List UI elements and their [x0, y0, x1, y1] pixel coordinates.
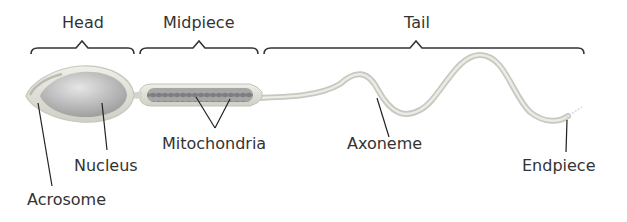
label-midpiece: Midpiece	[163, 15, 235, 31]
bracket-tail	[264, 41, 584, 54]
midpiece	[140, 84, 262, 106]
label-acrosome: Acrosome	[27, 192, 106, 208]
label-axoneme: Axoneme	[347, 136, 422, 152]
tail-flagellum	[255, 55, 582, 121]
bracket-head	[31, 41, 134, 54]
label-mitochondria: Mitochondria	[162, 136, 266, 152]
leader-endpiece	[566, 120, 567, 152]
mitochondria-coil	[147, 88, 253, 102]
sperm-diagram	[0, 0, 627, 222]
label-nucleus: Nucleus	[74, 158, 138, 174]
label-head: Head	[62, 15, 104, 31]
head	[26, 66, 134, 122]
label-endpiece: Endpiece	[522, 158, 596, 174]
bracket-midpiece	[140, 41, 258, 54]
label-tail: Tail	[404, 15, 430, 31]
